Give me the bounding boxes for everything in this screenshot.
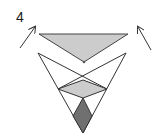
- geometric-figure: [0, 0, 159, 137]
- right-arrow-icon: [138, 27, 151, 50]
- light-diamond: [58, 80, 107, 98]
- top-triangle-vertex-dot: [83, 61, 86, 64]
- dark-diamond: [73, 98, 92, 133]
- top-triangle: [39, 34, 128, 62]
- left-arrow-icon: [20, 27, 35, 48]
